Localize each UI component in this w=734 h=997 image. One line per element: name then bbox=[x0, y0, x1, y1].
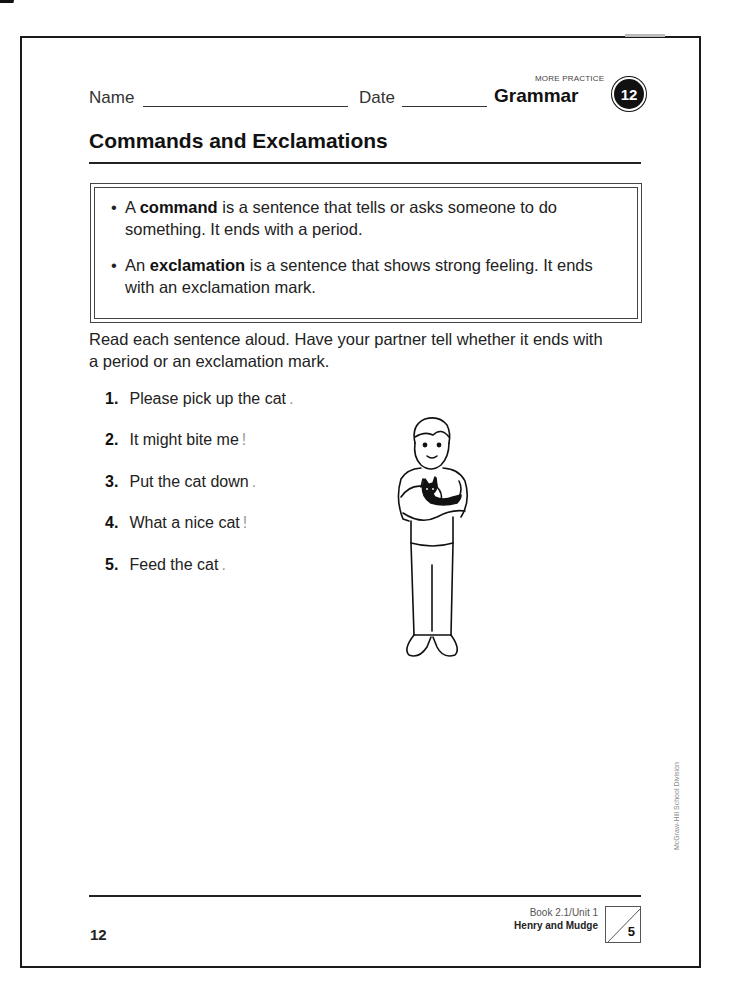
item-sentence: Feed the cat bbox=[129, 556, 218, 573]
item-number: 1. bbox=[105, 390, 125, 408]
rule-command: • A command is a sentence that tells or … bbox=[111, 196, 621, 240]
item-sentence: Please pick up the cat bbox=[129, 390, 286, 407]
exercise-item: 2. It might bite me! bbox=[105, 431, 246, 449]
bullet-icon: • bbox=[111, 254, 117, 276]
item-answer[interactable]: ! bbox=[243, 514, 247, 531]
exercise-item: 5. Feed the cat. bbox=[105, 556, 226, 574]
rule-exclamation: • An exclamation is a sentence that show… bbox=[111, 254, 621, 298]
name-field[interactable] bbox=[143, 106, 348, 107]
item-answer[interactable]: . bbox=[221, 556, 225, 573]
bullet-icon: • bbox=[111, 196, 117, 218]
item-answer[interactable]: . bbox=[289, 390, 293, 407]
date-field[interactable] bbox=[402, 106, 487, 107]
item-answer[interactable]: ! bbox=[242, 431, 246, 448]
date-label: Date bbox=[359, 88, 395, 108]
page-title: Commands and Exclamations bbox=[89, 129, 388, 153]
item-sentence: What a nice cat bbox=[129, 514, 239, 531]
subject-label: Grammar bbox=[494, 85, 579, 107]
scan-corner-mark bbox=[0, 0, 14, 9]
rules-box: • A command is a sentence that tells or … bbox=[90, 183, 642, 323]
rule-term: exclamation bbox=[150, 256, 245, 274]
item-sentence: Put the cat down bbox=[129, 473, 248, 490]
item-number: 4. bbox=[105, 514, 125, 532]
footer-divider bbox=[89, 895, 641, 897]
book-info: Book 2.1/Unit 1 Henry and Mudge bbox=[440, 907, 598, 931]
item-number: 2. bbox=[105, 431, 125, 449]
boy-holding-cat-illustration bbox=[381, 413, 481, 663]
score-total: 5 bbox=[628, 924, 635, 939]
item-number: 3. bbox=[105, 473, 125, 491]
rule-term: command bbox=[140, 198, 218, 216]
page-number: 12 bbox=[90, 926, 107, 943]
title-divider bbox=[89, 162, 641, 164]
page-frame bbox=[20, 36, 701, 968]
instructions: Read each sentence aloud. Have your part… bbox=[89, 328, 609, 372]
item-sentence: It might bite me bbox=[129, 431, 238, 448]
worksheet-header: Name Date MORE PRACTICE Grammar 12 bbox=[89, 82, 649, 112]
rule-prefix: A bbox=[125, 198, 140, 216]
name-label: Name bbox=[89, 88, 134, 108]
book-unit: Book 2.1/Unit 1 bbox=[440, 907, 598, 918]
scan-tick-mark bbox=[625, 34, 665, 37]
more-practice-label: MORE PRACTICE bbox=[535, 74, 604, 83]
exercise-item: 1. Please pick up the cat. bbox=[105, 390, 293, 408]
score-diagonal-icon bbox=[606, 907, 641, 943]
item-number: 5. bbox=[105, 556, 125, 574]
publisher-credit: McGraw-Hill School Division bbox=[673, 762, 680, 850]
score-box[interactable]: 5 bbox=[605, 906, 641, 943]
item-answer[interactable]: . bbox=[252, 473, 256, 490]
exercise-item: 4. What a nice cat! bbox=[105, 514, 247, 532]
lesson-number-badge: 12 bbox=[614, 79, 644, 109]
story-title: Henry and Mudge bbox=[440, 920, 598, 931]
exercise-item: 3. Put the cat down. bbox=[105, 473, 256, 491]
rule-prefix: An bbox=[125, 256, 150, 274]
